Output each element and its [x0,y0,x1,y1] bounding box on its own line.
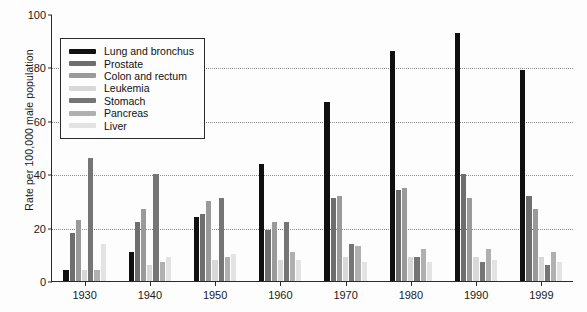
bar [147,265,152,281]
bar [343,257,348,281]
legend-label: Liver [104,120,127,132]
bar [129,252,134,281]
bar [101,244,106,281]
bar [212,260,217,281]
y-tick-mark [48,228,52,229]
bar [194,217,199,281]
x-tick-label: 1950 [203,289,227,301]
bar [492,260,497,281]
x-tick-mark [215,281,216,286]
bar [284,222,289,281]
x-tick-mark [411,281,412,286]
bar [324,102,329,281]
legend-swatch-icon [69,98,96,103]
bar [231,254,236,281]
y-tick-label: 60 [34,116,46,128]
bar [278,260,283,281]
bar [272,222,277,281]
bar-group [129,174,171,281]
legend-swatch-icon [69,49,96,54]
legend-item: Stomach [69,95,194,107]
bar [349,244,354,281]
y-axis-title: Rate per 100,000 male population [23,15,35,245]
bar [455,33,460,281]
bar [290,252,295,281]
y-tick-mark [48,68,52,69]
bar-group [63,158,105,281]
bar-group [520,70,562,281]
bar [200,214,205,281]
x-tick-label: 1990 [464,289,488,301]
bar [486,249,491,281]
bar [153,174,158,281]
x-tick-mark [476,281,477,286]
bar [70,233,75,281]
legend-label: Stomach [104,95,145,107]
bar [88,158,93,281]
bar [337,196,342,281]
legend-label: Lung and bronchus [104,45,194,57]
x-tick-label: 1980 [399,289,423,301]
bar [473,257,478,281]
chart-legend: Lung and bronchusProstateColon and rectu… [60,38,205,139]
bar [414,257,419,281]
bar-group [259,164,301,281]
bar [355,246,360,281]
bar [390,51,395,281]
bar [545,265,550,281]
y-tick-label: 80 [34,62,46,74]
legend-swatch-icon [69,123,96,128]
x-tick-label: 1960 [268,289,292,301]
legend-item: Colon and rectum [69,70,194,82]
legend-label: Prostate [104,58,143,70]
y-tick-mark [48,175,52,176]
bar [206,201,211,281]
y-tick-label: 40 [34,169,46,181]
bar [408,257,413,281]
legend-swatch-icon [69,111,96,116]
bar [331,198,336,281]
bar [551,252,556,281]
bar [539,257,544,281]
legend-item: Prostate [69,57,194,69]
bar [520,70,525,281]
bar [225,257,230,281]
x-tick-mark [280,281,281,286]
bar [76,220,81,281]
bar [396,190,401,281]
y-tick-mark [48,282,52,283]
bar [362,262,367,281]
bar [533,209,538,281]
x-tick-label: 1999 [529,289,553,301]
x-tick-label: 1970 [333,289,357,301]
legend-label: Colon and rectum [104,70,187,82]
x-tick-label: 1930 [72,289,96,301]
bar [160,262,165,281]
legend-label: Leukemia [104,82,150,94]
bar [402,188,407,281]
bar [259,164,264,281]
y-tick-mark [48,121,52,122]
y-tick-label: 20 [34,223,46,235]
bar [82,270,87,281]
x-tick-mark [85,281,86,286]
bar-group [455,33,497,281]
bar-group [324,102,366,281]
bar [557,262,562,281]
bar [427,262,432,281]
legend-item: Pancreas [69,107,194,119]
bar [296,260,301,281]
legend-item: Lung and bronchus [69,45,194,57]
bar [141,209,146,281]
bar-group [194,198,236,281]
cancer-death-rate-bar-chart: Rate per 100,000 male population 0204060… [0,0,587,312]
bar [480,262,485,281]
bar-group [390,51,432,281]
x-tick-mark [150,281,151,286]
legend-item: Leukemia [69,82,194,94]
legend-swatch-icon [69,61,96,66]
y-tick-mark [48,15,52,16]
bar [166,257,171,281]
y-tick-label: 100 [28,9,46,21]
bar [526,196,531,281]
